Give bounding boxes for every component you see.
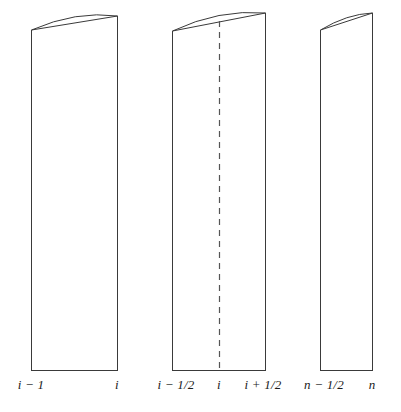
cell-left-chord: [32, 16, 118, 30]
cell-middle-group: [172, 12, 266, 370]
tick-label-n-minus-half: n − 1/2: [304, 378, 344, 391]
tick-label-i-middle-cell: i: [217, 378, 221, 391]
cell-left-group: [31, 15, 118, 371]
tick-label-i-plus-half: i + 1/2: [245, 378, 282, 391]
tick-label-i-minus-half: i − 1/2: [158, 378, 195, 391]
figure-canvas: i − 1 i i − 1/2 i i + 1/2 n − 1/2 n: [0, 0, 401, 412]
cell-right-group: [320, 13, 373, 371]
figure-vector-graphic: [0, 0, 401, 412]
tick-label-i-minus-1: i − 1: [18, 378, 44, 391]
tick-label-i-left-cell: i: [115, 378, 119, 391]
tick-label-n: n: [369, 378, 376, 391]
cell-right-chord: [321, 13, 373, 30]
